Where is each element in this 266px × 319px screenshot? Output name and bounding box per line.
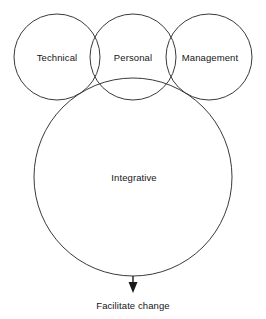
label-integrative: Integrative	[111, 173, 156, 183]
label-facilitate-change: Facilitate change	[96, 301, 170, 311]
venn-diagram-svg	[0, 0, 266, 319]
label-management: Management	[182, 53, 238, 63]
facilitate-change-arrow-head	[129, 282, 138, 293]
label-technical: Technical	[37, 53, 78, 63]
label-personal: Personal	[114, 53, 152, 63]
venn-diagram-canvas: Technical Personal Management Integrativ…	[0, 0, 266, 319]
